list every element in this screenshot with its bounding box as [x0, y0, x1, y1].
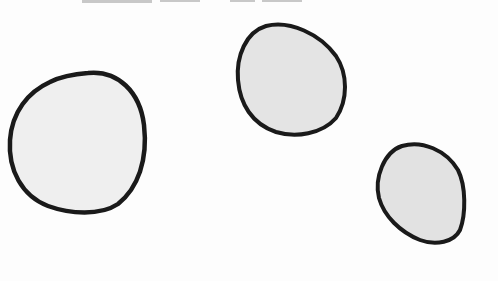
blobs-drawing	[0, 0, 498, 281]
cropped-caption-marks	[82, 0, 302, 3]
medium-blob-top	[238, 25, 345, 135]
small-blob-right	[378, 144, 465, 242]
illustration-canvas	[0, 0, 498, 281]
large-blob-left	[10, 73, 145, 213]
